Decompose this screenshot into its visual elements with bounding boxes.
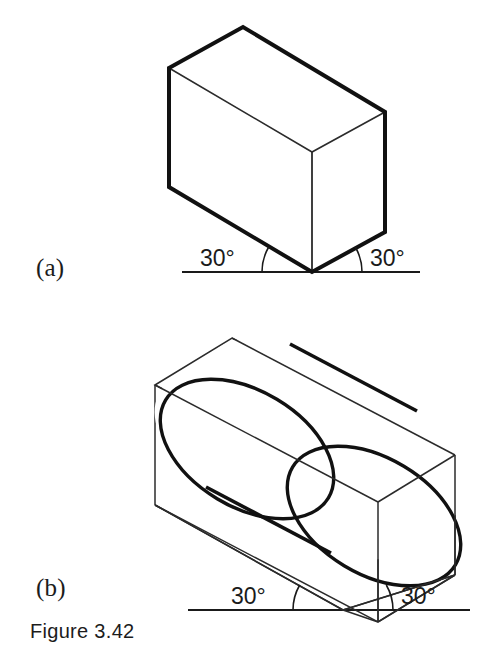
- part-b-drawing: 30° 30°: [136, 338, 486, 622]
- figure-caption: Figure 3.42: [30, 620, 134, 643]
- angle-label-a-right: 30°: [370, 245, 405, 271]
- angle-arc-a-right: [355, 247, 362, 272]
- box-b-vertex-link: [343, 610, 378, 622]
- angle-arc-b-right: [386, 585, 393, 610]
- figure-drawing-canvas: 30° 30°: [0, 0, 496, 657]
- angle-label-b-right: 30°: [401, 583, 436, 609]
- part-label-a: (a): [36, 254, 64, 282]
- part-a-drawing: 30° 30°: [169, 27, 420, 272]
- angle-arc-a-left: [262, 247, 269, 272]
- part-label-b: (b): [36, 574, 66, 602]
- angle-label-b-left: 30°: [231, 583, 266, 609]
- angle-arc-b-left: [293, 585, 300, 610]
- figure-3-42: 30° 30°: [0, 0, 496, 657]
- angle-label-a-left: 30°: [200, 245, 235, 271]
